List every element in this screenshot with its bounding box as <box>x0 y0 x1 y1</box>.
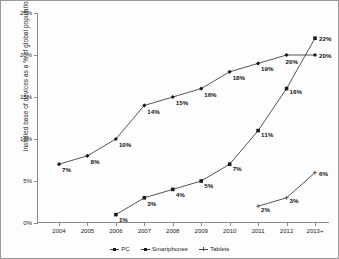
y-tick-mark <box>34 223 38 224</box>
data-point-marker <box>143 196 147 200</box>
data-point-label: 8% <box>90 157 99 164</box>
data-point-marker <box>313 53 317 57</box>
data-point-label: 10% <box>119 141 131 148</box>
data-point-marker <box>171 188 175 192</box>
x-tick-label: 2008 <box>166 228 179 234</box>
data-point-label: 11% <box>261 130 273 137</box>
data-point-marker <box>256 129 260 133</box>
data-point-label: 1% <box>119 215 128 222</box>
data-point-marker <box>228 162 232 166</box>
data-point-label: 3% <box>290 196 299 203</box>
data-point-label: 20% <box>319 52 331 59</box>
x-tick-label: 2004 <box>52 228 65 234</box>
x-tick-label: 2006 <box>109 228 122 234</box>
data-point-marker <box>171 95 175 99</box>
data-point-label: 2% <box>261 206 270 213</box>
data-point-marker <box>114 213 118 217</box>
series-line-smartphones <box>116 38 315 214</box>
chart-container: Installed base of devices as a % of glob… <box>0 0 339 259</box>
data-point-marker <box>199 87 203 91</box>
data-point-marker <box>256 61 260 65</box>
data-point-label: 18% <box>233 73 245 80</box>
series-line-pc <box>59 55 315 164</box>
x-tick-label: 2012 <box>280 228 293 234</box>
data-point-label: 20% <box>286 58 298 65</box>
data-point-label: 3% <box>147 199 156 206</box>
plot-area: 0%5%10%15%20%25% 20042005200620072008200… <box>37 13 329 223</box>
y-tick-label: 0% <box>23 220 32 226</box>
y-tick-label: 20% <box>20 52 32 58</box>
x-tick-label: 2010 <box>223 228 236 234</box>
legend-item-smartphones[interactable]: Smartphones <box>141 246 188 252</box>
legend-item-pc[interactable]: PC <box>110 246 130 252</box>
y-tick-label: 5% <box>23 178 32 184</box>
chart-legend: PCSmartphonesTablets <box>1 246 338 252</box>
data-point-marker <box>57 162 61 166</box>
legend-item-tablets[interactable]: Tablets <box>199 246 230 252</box>
legend-marker-icon <box>110 246 119 252</box>
data-point-label: 5% <box>204 182 213 189</box>
data-point-label: 6% <box>319 169 328 176</box>
data-point-label: 15% <box>176 99 188 106</box>
y-tick-label: 15% <box>20 94 32 100</box>
series-line-tablets <box>258 173 315 207</box>
legend-marker-icon <box>141 246 150 252</box>
data-point-label: 22% <box>319 35 331 42</box>
data-point-marker <box>313 36 317 40</box>
legend-marker-icon <box>199 246 208 252</box>
data-point-label: 7% <box>62 166 71 173</box>
data-point-label: 19% <box>261 65 273 72</box>
data-point-marker <box>285 87 289 91</box>
y-tick-label: 10% <box>20 136 32 142</box>
data-point-label: 16% <box>204 90 216 97</box>
data-point-marker <box>256 204 260 208</box>
data-point-marker <box>228 70 232 74</box>
data-point-label: 4% <box>176 191 185 198</box>
x-tick-label: 2011 <box>252 228 265 234</box>
data-point-marker <box>199 179 203 183</box>
legend-item-label: Smartphones <box>152 246 188 252</box>
y-tick-label: 25% <box>20 10 32 16</box>
x-tick-label: 2009 <box>195 228 208 234</box>
data-point-marker <box>85 154 89 158</box>
data-point-label: 16% <box>290 87 302 94</box>
x-tick-label: 2005 <box>81 228 94 234</box>
legend-item-label: Tablets <box>210 246 229 252</box>
data-point-label: 14% <box>147 108 159 115</box>
x-tick-label: 2007 <box>138 228 151 234</box>
data-point-marker <box>284 53 288 57</box>
legend-item-label: PC <box>121 246 129 252</box>
x-tick-label: 2013+ <box>307 228 324 234</box>
data-point-label: 7% <box>233 165 242 172</box>
